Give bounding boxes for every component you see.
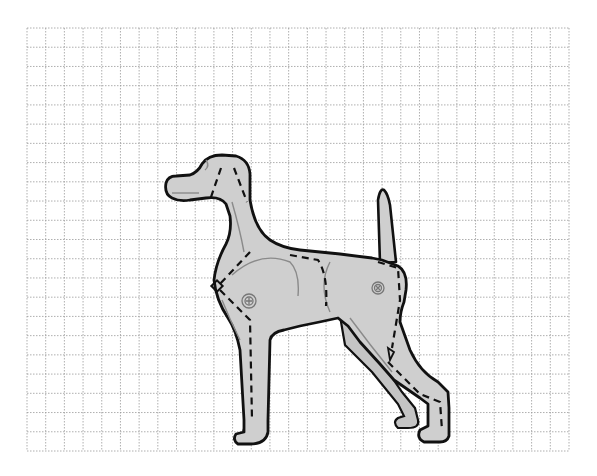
- diagram-canvas: [0, 0, 597, 476]
- grid: [27, 28, 569, 451]
- dog-pattern-diagram: Dog pattern on grid: [0, 0, 597, 476]
